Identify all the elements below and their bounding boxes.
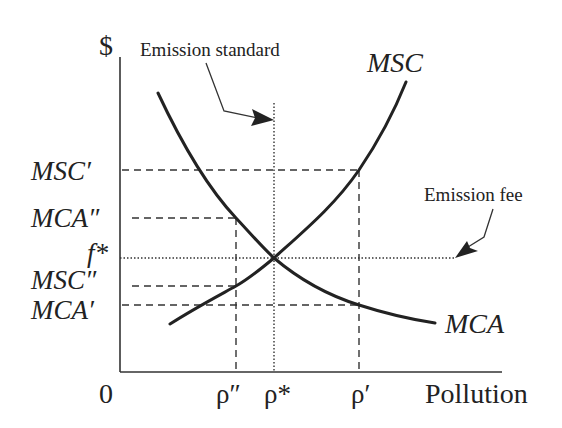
y-tick-f-star: f* bbox=[87, 238, 109, 268]
msc-curve-label: MSC bbox=[366, 47, 423, 78]
msc-curve bbox=[170, 82, 406, 324]
emission-standard-arrow-line bbox=[206, 63, 258, 118]
pollution-policy-diagram: $ 0 Pollution MSC MCA MSC′ MCA″ f* MSC″ … bbox=[0, 0, 562, 428]
emission-standard-label: Emission standard bbox=[140, 39, 280, 60]
emission-fee-label: Emission fee bbox=[424, 184, 523, 205]
x-axis-label: Pollution bbox=[425, 378, 528, 409]
x-tick-rho-prime: ρ′ bbox=[351, 379, 370, 409]
y-tick-mca-double-prime: MCA″ bbox=[30, 203, 100, 233]
y-tick-msc-double-prime: MSC″ bbox=[30, 265, 97, 295]
y-tick-msc-prime: MSC′ bbox=[30, 156, 92, 186]
x-tick-rho-double-prime: ρ″ bbox=[216, 379, 241, 409]
y-axis-label: $ bbox=[99, 30, 113, 61]
emission-fee-arrow-line bbox=[468, 209, 493, 247]
origin-label: 0 bbox=[99, 378, 113, 409]
x-tick-rho-star: ρ* bbox=[264, 379, 291, 409]
y-tick-mca-prime: MCA′ bbox=[30, 295, 95, 325]
mca-curve bbox=[158, 93, 435, 323]
mca-curve-label: MCA bbox=[444, 308, 505, 339]
